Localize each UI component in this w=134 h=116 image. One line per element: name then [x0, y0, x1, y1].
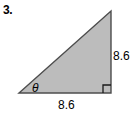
horizontal-side-length-label: 8.6 — [58, 99, 75, 112]
theta-angle-label: θ — [32, 82, 39, 95]
vertical-side-length-label: 8.6 — [113, 50, 130, 63]
problem-figure-container: 3. 8.6 8.6 θ — [0, 0, 134, 116]
